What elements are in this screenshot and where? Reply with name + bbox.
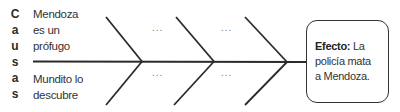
branch-3-top-placeholder: ...: [221, 22, 232, 33]
branch-2-bottom-placeholder: ...: [152, 67, 163, 78]
branch-3-bottom: [245, 62, 287, 105]
branch-2-bottom: [174, 62, 214, 106]
branch-2-top-placeholder: ...: [152, 22, 163, 33]
branch-1-top: [106, 17, 142, 62]
branch-1-bottom: [106, 62, 142, 106]
spine-line: [33, 62, 306, 63]
effect-text: Efecto: La policía mata a Mendoza.: [315, 39, 371, 84]
branch-2-top: [176, 17, 214, 62]
effect-label: Efecto:: [315, 40, 350, 52]
branch-3-top: [245, 17, 287, 62]
branch-3-bottom-placeholder: ...: [221, 67, 232, 78]
effect-line: policía mata: [315, 55, 371, 67]
effect-line: La: [353, 40, 365, 52]
effect-line: a Mendoza.: [315, 70, 369, 82]
effect-box: Efecto: La policía mata a Mendoza.: [306, 20, 389, 103]
